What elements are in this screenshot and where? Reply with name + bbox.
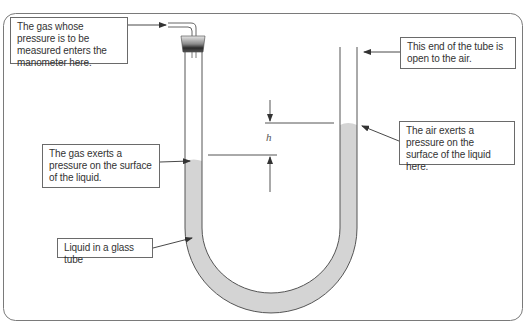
rubber-stopper xyxy=(181,36,205,52)
label-gas-pressure: The gas exerts a pressure on the surface… xyxy=(42,144,160,188)
arrow-air-pressure xyxy=(362,126,399,141)
label-open-end: This end of the tube is open to the air. xyxy=(400,37,516,69)
label-liquid: Liquid in a glass tube xyxy=(57,238,153,258)
label-air-pressure: The air exerts a pressure on the surface… xyxy=(399,121,515,165)
height-difference-label: h xyxy=(266,131,272,143)
label-gas-inlet: The gas whose pressure is to be measured… xyxy=(10,17,128,64)
gas-inlet-pipe-inner xyxy=(168,27,192,36)
liquid-column xyxy=(185,123,357,313)
